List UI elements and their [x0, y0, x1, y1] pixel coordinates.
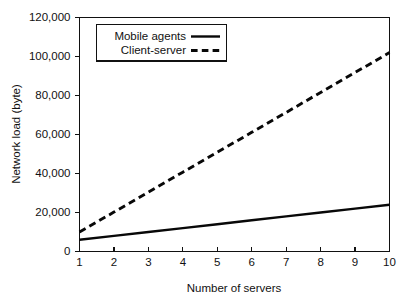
y-axis-title: Network load (byte) — [10, 84, 22, 184]
x-tick-label: 2 — [111, 256, 117, 268]
series-line-client-server — [80, 53, 390, 232]
y-tick-label: 60,000 — [35, 128, 70, 140]
y-axis-tick-labels: 020,00040,00060,00080,000100,000120,000 — [29, 11, 71, 257]
x-axis-tick-labels: 12345678910 — [76, 256, 396, 268]
legend: Mobile agents Client-server — [97, 25, 227, 62]
x-tick-label: 7 — [283, 256, 289, 268]
x-tick-label: 1 — [76, 256, 82, 268]
x-tick-label: 5 — [214, 256, 220, 268]
y-tick-label: 20,000 — [35, 206, 70, 218]
y-tick-label: 40,000 — [35, 167, 70, 179]
x-tick-label: 9 — [352, 256, 358, 268]
y-tick-label: 80,000 — [35, 89, 70, 101]
x-tick-label: 8 — [317, 256, 323, 268]
y-tick-label: 120,000 — [29, 11, 71, 23]
x-tick-label: 4 — [180, 256, 187, 268]
line-chart: 020,00040,00060,00080,000100,000120,000 … — [0, 0, 412, 303]
x-axis-title: Number of servers — [187, 282, 282, 294]
data-series-layer — [80, 53, 390, 240]
x-tick-label: 3 — [145, 256, 151, 268]
y-tick-label: 100,000 — [29, 50, 71, 62]
x-tick-label: 6 — [249, 256, 255, 268]
legend-label-mobile-agents: Mobile agents — [114, 30, 186, 42]
legend-label-client-server: Client-server — [121, 44, 186, 56]
y-tick-label: 0 — [64, 245, 70, 257]
series-line-mobile-agents — [80, 205, 390, 240]
chart-figure: 020,00040,00060,00080,000100,000120,000 … — [0, 0, 412, 303]
x-tick-label: 10 — [383, 256, 396, 268]
